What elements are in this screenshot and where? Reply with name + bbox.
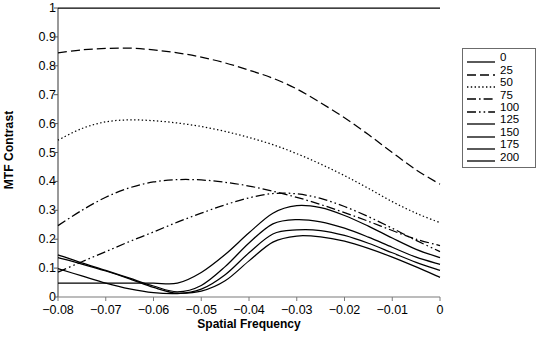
legend-line-swatch xyxy=(466,78,496,88)
series-line-75 xyxy=(58,179,440,245)
figure-container: MTF Contrast 00.10.20.30.40.50.60.70.80.… xyxy=(0,0,553,353)
legend-label: 125 xyxy=(500,114,519,126)
legend-item[interactable]: 50 xyxy=(463,77,535,89)
series-line-125 xyxy=(58,205,440,284)
legend-item[interactable]: 200 xyxy=(463,151,535,163)
legend-item[interactable]: 125 xyxy=(463,114,535,126)
series-line-150 xyxy=(58,219,440,291)
legend-label: 50 xyxy=(500,77,513,89)
legend-line-swatch xyxy=(466,66,496,76)
legend-line-swatch xyxy=(466,115,496,125)
legend-item[interactable]: 0 xyxy=(463,52,535,64)
legend-label: 75 xyxy=(500,90,513,102)
series-line-50 xyxy=(58,120,440,223)
legend-line-swatch xyxy=(466,103,496,113)
legend-item[interactable]: 75 xyxy=(463,89,535,101)
chart-legend: 0255075100125150175200 xyxy=(462,48,536,168)
series-line-25 xyxy=(58,48,440,184)
legend-label: 150 xyxy=(500,127,519,139)
legend-label: 175 xyxy=(500,139,519,151)
legend-line-swatch xyxy=(466,90,496,100)
x-axis-title: Spatial Frequency xyxy=(58,317,440,331)
legend-label: 200 xyxy=(500,152,519,164)
legend-item[interactable]: 175 xyxy=(463,139,535,151)
legend-line-swatch xyxy=(466,53,496,63)
legend-item[interactable]: 150 xyxy=(463,126,535,138)
legend-label: 100 xyxy=(500,102,519,114)
legend-line-swatch xyxy=(466,140,496,150)
legend-item[interactable]: 100 xyxy=(463,102,535,114)
legend-item[interactable]: 25 xyxy=(463,64,535,76)
legend-label: 25 xyxy=(500,65,513,77)
legend-label: 0 xyxy=(500,52,506,64)
series-line-200 xyxy=(58,236,440,294)
legend-line-swatch xyxy=(466,152,496,162)
legend-line-swatch xyxy=(466,128,496,138)
